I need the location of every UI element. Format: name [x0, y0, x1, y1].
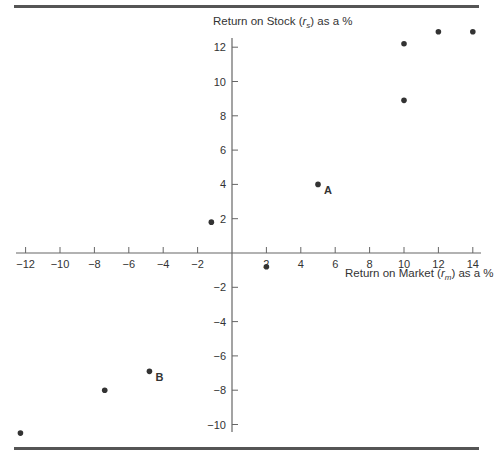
y-tick-label: 2 — [220, 213, 226, 225]
data-point — [436, 29, 442, 35]
x-tick-label: −2 — [191, 258, 204, 270]
y-tick-label: −6 — [213, 350, 226, 362]
data-point — [102, 387, 108, 393]
y-tick-label: −2 — [213, 281, 226, 293]
data-point — [470, 29, 476, 35]
data-point — [209, 219, 215, 225]
x-tick-label: −12 — [16, 258, 35, 270]
y-tick-label: 6 — [220, 144, 226, 156]
y-tick-label: 4 — [220, 178, 226, 190]
y-tick-label: −8 — [213, 384, 226, 396]
x-tick-label: −6 — [123, 258, 136, 270]
x-tick-label: 4 — [298, 258, 304, 270]
y-tick-label: −10 — [207, 419, 226, 431]
x-tick-label: 14 — [467, 258, 479, 270]
x-tick-label: −10 — [51, 258, 70, 270]
data-point — [401, 98, 407, 104]
x-tick-label: 8 — [367, 258, 373, 270]
y-tick-label: 10 — [214, 76, 226, 88]
x-tick-label: 10 — [398, 258, 410, 270]
data-point — [401, 41, 407, 47]
data-point — [264, 264, 270, 270]
y-tick-label: 12 — [214, 41, 226, 53]
data-point — [315, 182, 321, 188]
y-tick-label: 8 — [220, 110, 226, 122]
x-tick-label: −4 — [157, 258, 170, 270]
x-tick-label: 6 — [332, 258, 338, 270]
data-point — [147, 369, 153, 375]
point-label-b: B — [155, 371, 163, 383]
point-label-a: A — [324, 184, 332, 196]
data-point — [18, 430, 24, 436]
y-tick-label: −4 — [213, 316, 226, 328]
x-tick-label: −8 — [88, 258, 101, 270]
x-tick-label: 12 — [432, 258, 444, 270]
